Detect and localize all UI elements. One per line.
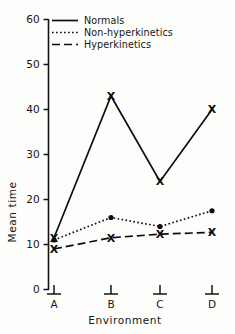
data-point-marker-x: X bbox=[107, 90, 116, 103]
legend-label-non-hyperkinetics: Non-hyperkinetics bbox=[84, 27, 173, 38]
series-line bbox=[54, 211, 212, 240]
x-cat-label-a: A bbox=[50, 298, 58, 310]
data-point-marker-dot bbox=[51, 237, 56, 242]
y-axis-title: Mean time bbox=[6, 181, 18, 242]
data-point-marker-x: X bbox=[107, 232, 116, 245]
legend-label-normals: Normals bbox=[84, 15, 124, 26]
series-normals: XXXX bbox=[50, 90, 217, 245]
x-axis: A B C D Environment bbox=[47, 285, 219, 326]
data-point-marker-x: X bbox=[156, 175, 165, 188]
y-tick-label-30: 30 bbox=[26, 148, 40, 160]
data-point-marker-x: X bbox=[50, 243, 59, 256]
x-tick-b bbox=[104, 285, 118, 294]
y-tick-label-40: 40 bbox=[26, 103, 40, 115]
data-point-marker-x: X bbox=[208, 103, 217, 116]
y-tick-label-0: 0 bbox=[33, 283, 40, 295]
series-layer: XXXXXXXX bbox=[50, 90, 217, 256]
y-axis: 60 50 40 30 20 10 0 Mean time bbox=[6, 13, 49, 295]
data-point-marker-x: X bbox=[208, 226, 217, 239]
series-hyperkinetics: XXXX bbox=[50, 226, 217, 256]
data-point-marker-dot bbox=[108, 215, 113, 220]
y-tick-label-50: 50 bbox=[26, 58, 40, 70]
x-axis-title: Environment bbox=[88, 314, 162, 326]
series-line bbox=[54, 96, 212, 238]
data-point-marker-x: X bbox=[156, 228, 165, 241]
y-tick-label-20: 20 bbox=[26, 193, 40, 205]
legend: Normals Non-hyperkinetics Hyperkinetics bbox=[52, 15, 173, 50]
x-cat-label-b: B bbox=[107, 298, 114, 310]
x-cat-label-d: D bbox=[208, 298, 216, 310]
legend-label-hyperkinetics: Hyperkinetics bbox=[84, 39, 151, 50]
x-tick-c bbox=[153, 285, 167, 294]
y-tick-label-10: 10 bbox=[26, 238, 40, 250]
data-point-marker-dot bbox=[209, 208, 214, 213]
y-tick-label-60: 60 bbox=[26, 13, 40, 25]
line-chart: 60 50 40 30 20 10 0 Mean time bbox=[0, 0, 235, 334]
x-cat-label-c: C bbox=[156, 298, 163, 310]
chart-figure: 60 50 40 30 20 10 0 Mean time bbox=[0, 0, 235, 334]
series-non-hyperkinetics bbox=[51, 208, 214, 242]
series-line bbox=[54, 232, 212, 249]
x-tick-d bbox=[205, 285, 219, 294]
